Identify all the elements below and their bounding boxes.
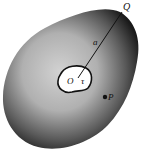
inner-region-tau <box>58 66 92 92</box>
label-a: a <box>93 37 98 47</box>
point-p-dot <box>103 95 107 99</box>
label-q: Q <box>123 1 131 12</box>
label-o: O <box>67 76 74 86</box>
diagram-canvas: Q a O τ P <box>0 0 148 162</box>
label-p: P <box>107 92 114 102</box>
